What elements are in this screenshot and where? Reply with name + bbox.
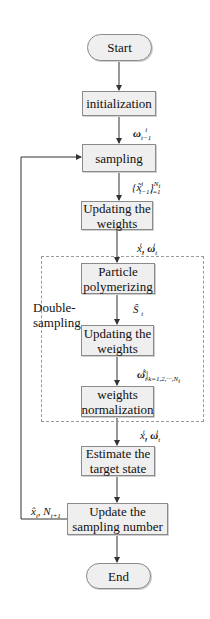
estimate-target-state-label: Estimate the target state	[82, 446, 154, 476]
particle-polymerizing-label: Particle polymerizing	[82, 264, 154, 294]
edge-label-update-to-normalize: ωtk|k=1,2,···,Nt	[137, 365, 180, 387]
end-node[interactable]: End	[86, 563, 151, 589]
update-sampling-number-label: Update the sampling number	[68, 504, 167, 534]
edge-label-update-to-polymerize: xti, ωti	[137, 239, 155, 259]
edge-label-feedback: x̂t, Nt+1	[31, 505, 61, 522]
updating-weights-label-1: Updating the weights	[82, 201, 152, 231]
end-label: End	[108, 569, 129, 584]
initialization-node[interactable]: initialization	[82, 91, 156, 116]
updating-weights-node-1[interactable]: Updating the weights	[81, 201, 153, 230]
edge-label-polymerize-to-update: Ŝ t	[133, 303, 143, 320]
weights-normalization-label: weights normalization	[81, 387, 153, 417]
particle-polymerizing-node[interactable]: Particle polymerizing	[81, 263, 155, 294]
estimate-target-state-node[interactable]: Estimate the target state	[81, 446, 155, 476]
edge-label-normalize-to-estimate: xti, ωti	[140, 426, 158, 446]
start-label: Start	[107, 40, 132, 55]
initialization-label: initialization	[86, 96, 152, 111]
update-sampling-number-node[interactable]: Update the sampling number	[67, 503, 168, 535]
edge-label-sampling-to-update: {x̃it−1}Nti=1	[132, 178, 161, 198]
edge-label-init-to-sampling: ωt−1i	[133, 124, 147, 144]
start-node[interactable]: Start	[87, 34, 152, 61]
sampling-node[interactable]: sampling	[82, 144, 156, 172]
updating-weights-label-2: Updating the weights	[82, 326, 153, 356]
double-sampling-label: Double-sampling	[33, 300, 83, 330]
updating-weights-node-2[interactable]: Updating the weights	[81, 325, 154, 356]
weights-normalization-node[interactable]: weights normalization	[81, 386, 154, 417]
sampling-label: sampling	[95, 151, 143, 166]
group-label-text: Double-sampling	[33, 300, 81, 330]
